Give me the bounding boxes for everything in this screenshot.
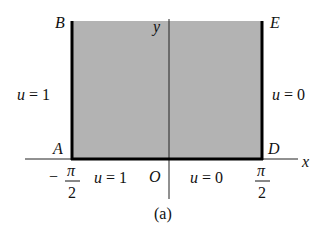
- bc-left-side: u = 1: [17, 86, 50, 103]
- bc-bottom-right: u = 0: [190, 169, 223, 186]
- svg-text:π: π: [67, 162, 76, 179]
- label-D: D: [267, 140, 280, 157]
- y-axis-label: y: [151, 18, 161, 36]
- strip-diagram: B E A D O y x u = 1 u = 0 u = 1 u = 0 − …: [0, 0, 330, 237]
- tick-pi-over-2: π 2: [255, 162, 270, 201]
- x-axis-label: x: [301, 153, 309, 170]
- figure-caption: (a): [154, 205, 172, 223]
- svg-text:2: 2: [258, 184, 266, 201]
- svg-text:−: −: [49, 168, 58, 185]
- label-E: E: [269, 14, 280, 31]
- label-B: B: [55, 14, 65, 31]
- shaded-strip-region: [71, 21, 263, 159]
- label-O: O: [149, 168, 161, 185]
- svg-text:π: π: [257, 162, 266, 179]
- bc-bottom-left: u = 1: [94, 169, 127, 186]
- bc-right-side: u = 0: [272, 86, 305, 103]
- label-A: A: [52, 140, 63, 157]
- tick-neg-pi-over-2: − π 2: [49, 162, 80, 201]
- svg-text:2: 2: [68, 184, 76, 201]
